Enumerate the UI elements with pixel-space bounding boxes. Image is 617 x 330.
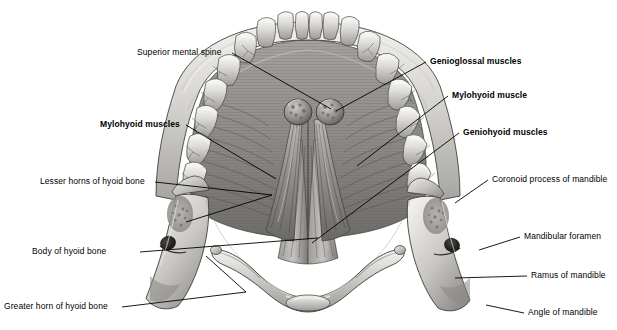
label-superior-mental-spine: Superior mental spine xyxy=(137,47,221,57)
label-greater-horn-of-hyoid-bone: Greater horn of hyoid bone xyxy=(4,301,108,311)
mandibular-ramus-right xyxy=(407,178,470,311)
label-mylohyoid-muscle-right: Mylohyoid muscle xyxy=(452,90,527,100)
lesser-horn-right xyxy=(395,246,406,255)
label-coronoid-process-of-mandible: Coronoid process of mandible xyxy=(492,174,607,184)
label-genioglossal-muscles: Genioglossal muscles xyxy=(430,56,521,66)
lesser-horn-left xyxy=(211,246,222,255)
label-lesser-horns-of-hyoid-bone: Lesser horns of hyoid bone xyxy=(40,176,145,186)
anatomy-figure: Superior mental spine Mylohyoid muscles … xyxy=(0,0,617,330)
label-geniohyoid-muscles: Geniohyoid muscles xyxy=(463,127,548,137)
label-body-of-hyoid-bone: Body of hyoid bone xyxy=(32,246,106,256)
label-angle-of-mandible: Angle of mandible xyxy=(528,307,598,317)
label-mylohyoid-muscles-left: Mylohyoid muscles xyxy=(100,119,180,129)
label-mandibular-foramen: Mandibular foramen xyxy=(524,231,601,241)
label-ramus-of-mandible: Ramus of mandible xyxy=(531,270,606,280)
mandibular-ramus-left xyxy=(146,176,209,309)
mandible-hyoid-illustration xyxy=(0,0,617,330)
